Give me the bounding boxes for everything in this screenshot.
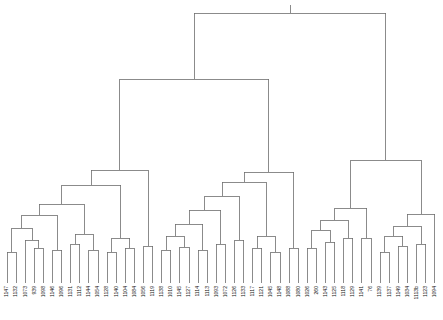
leaf-label: 1094 [431, 286, 437, 297]
leaf-label: 1127 [185, 286, 191, 297]
leaf-label: 1112 [76, 286, 82, 297]
leaf-label: 1145 [176, 286, 182, 297]
merge-m09 [75, 234, 93, 250]
merge-m02 [34, 248, 43, 258]
merge-m36 [344, 238, 353, 250]
dendrogram-leaf-labels: 1147113210739391098114610961131111211441… [3, 286, 437, 300]
leaf-label: 1080 [295, 286, 301, 297]
leaf-label: 1133 [240, 286, 246, 297]
leaf-label: 1144 [85, 286, 91, 297]
merge-m40 [380, 252, 389, 262]
leaf-label: 1126 [231, 286, 237, 297]
leaf-label: 1131 [67, 286, 73, 297]
merge-m42 [385, 236, 403, 252]
merge-m38 [362, 238, 371, 256]
merge-m06 [22, 215, 57, 250]
merge-m24 [235, 240, 244, 254]
merge-m47 [194, 13, 386, 160]
leaf-label: 1096 [58, 286, 64, 297]
merge-m31 [244, 172, 294, 248]
merge-m12 [125, 248, 134, 258]
merge-m25 [205, 196, 239, 240]
leaf-label: 1117 [249, 286, 255, 297]
leaf-label: 1113 [204, 286, 210, 297]
leaf-label: 1113b [413, 286, 419, 300]
leaf-label: 1148 [276, 286, 282, 297]
merge-m28 [257, 236, 275, 252]
leaf-label: 1141 [358, 286, 364, 297]
leaf-label: 1125 [331, 286, 337, 297]
leaf-label: 1098 [40, 286, 46, 297]
leaf-label: 1128 [103, 286, 109, 297]
merge-m34 [326, 242, 335, 256]
leaf-label: 1088 [285, 286, 291, 297]
leaf-label: 1123 [422, 286, 428, 297]
merge-m17 [162, 250, 171, 260]
leaf-label: 1139 [376, 286, 382, 297]
leaf-label: 1072 [222, 286, 228, 297]
merge-m35 [312, 230, 330, 248]
merge-m07 [71, 244, 80, 265]
merge-m11 [107, 252, 116, 262]
leaf-label: 260 [313, 286, 319, 295]
merge-m27 [271, 252, 280, 262]
leaf-label: 1119 [149, 286, 155, 297]
leaf-label: 1045 [267, 286, 273, 297]
merge-m18 [180, 247, 189, 258]
leaf-label: 1084 [131, 286, 137, 297]
merge-m32 [120, 79, 269, 172]
merge-m16 [91, 170, 148, 246]
leaf-label: 1140 [113, 286, 119, 297]
leaf-label: 1054 [94, 286, 100, 297]
merge-m44 [394, 226, 421, 244]
merge-m13 [112, 238, 130, 252]
merge-m43 [417, 244, 426, 254]
leaf-label: 1026 [304, 286, 310, 297]
leaf-label: 1129 [349, 286, 355, 297]
leaf-label: 1010 [167, 286, 173, 297]
merge-m03 [25, 240, 39, 262]
merge-m01 [7, 252, 16, 262]
merge-m33 [307, 248, 316, 258]
leaf-label: 1034 [404, 286, 410, 297]
leaf-label: 1073 [22, 286, 28, 297]
leaf-label: 1114 [194, 286, 200, 297]
merge-m21 [175, 224, 202, 250]
merge-m08 [89, 250, 98, 258]
merge-m37 [321, 220, 348, 238]
dendrogram-links [7, 5, 435, 283]
merge-m15 [144, 246, 153, 262]
leaf-label: 1137 [386, 286, 392, 297]
leaf-label: 1093 [213, 286, 219, 297]
leaf-label: 1056 [140, 286, 146, 297]
merge-m05 [53, 250, 62, 262]
merge-m19 [166, 236, 184, 250]
dendrogram-canvas: 1147113210739391098114610961131111211441… [0, 0, 443, 320]
leaf-label: 1118 [340, 286, 346, 297]
leaf-label: 1149 [395, 286, 401, 297]
leaf-label: 1147 [3, 286, 9, 297]
merge-m10 [39, 204, 84, 234]
leaf-label: 1121 [258, 286, 264, 297]
merge-m46 [351, 160, 422, 214]
merge-m26 [253, 248, 262, 258]
leaf-label: 939 [31, 286, 37, 295]
leaf-label: 76 [367, 286, 373, 292]
merge-m41 [398, 246, 407, 258]
merge-m14 [62, 185, 121, 238]
merge-m29 [222, 182, 266, 236]
merge-m30 [289, 248, 298, 260]
merge-m23 [189, 210, 221, 244]
leaf-label: 1143 [322, 286, 328, 297]
merge-m39 [335, 208, 367, 238]
leaf-label: 1146 [49, 286, 55, 297]
merge-m22 [216, 244, 225, 258]
leaf-label: 1104 [122, 286, 128, 297]
dendrogram-figure: 1147113210739391098114610961131111211441… [0, 0, 443, 320]
leaf-label: 1132 [12, 286, 18, 297]
leaf-label: 1138 [158, 286, 164, 297]
merge-m20 [198, 250, 207, 262]
